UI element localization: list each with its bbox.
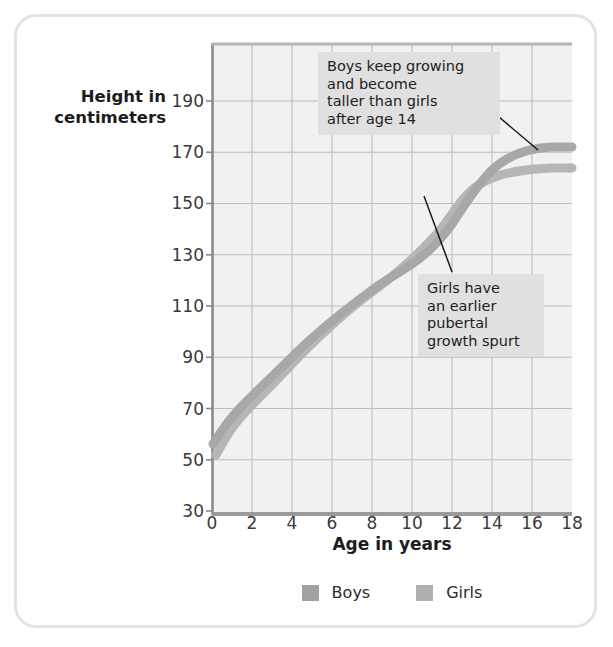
legend-item-girls: Girls <box>416 583 482 602</box>
chart-legend: Boys Girls <box>212 583 572 602</box>
x-tick-label-0: 0 <box>197 515 227 532</box>
legend-item-boys: Boys <box>302 583 371 602</box>
x-axis-title: Age in years <box>212 534 572 555</box>
x-tick-label-10: 10 <box>397 515 427 532</box>
x-tick-label-16: 16 <box>517 515 547 532</box>
legend-label-girls: Girls <box>446 583 482 602</box>
x-tick-label-18: 18 <box>557 515 587 532</box>
x-tick-label-8: 8 <box>357 515 387 532</box>
x-tick-label-4: 4 <box>277 515 307 532</box>
y-tick-label-70: 70 <box>160 401 204 418</box>
y-axis-title: Height in centimeters <box>36 86 166 128</box>
y-tick-label-50: 50 <box>160 452 204 469</box>
y-axis-tick-marks <box>206 101 212 511</box>
y-tick-label-170: 170 <box>160 144 204 161</box>
legend-swatch-boys <box>302 585 319 601</box>
y-tick-label-90: 90 <box>160 349 204 366</box>
y-tick-label-110: 110 <box>160 298 204 315</box>
x-tick-label-14: 14 <box>477 515 507 532</box>
legend-label-boys: Boys <box>332 583 371 602</box>
y-tick-label-190: 190 <box>160 93 204 110</box>
boys-annotation-box: Boys keep growing and become taller than… <box>318 52 500 135</box>
x-tick-label-12: 12 <box>437 515 467 532</box>
x-tick-label-6: 6 <box>317 515 347 532</box>
girls-annotation-box: Girls have an earlier pubertal growth sp… <box>418 274 544 357</box>
y-tick-label-150: 150 <box>160 195 204 212</box>
x-tick-label-2: 2 <box>237 515 267 532</box>
legend-swatch-girls <box>416 585 433 601</box>
y-tick-label-130: 130 <box>160 247 204 264</box>
